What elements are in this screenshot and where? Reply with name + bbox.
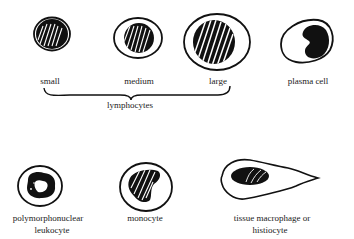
label-medium: medium [124, 75, 154, 87]
label-small: small [40, 75, 60, 87]
small-lymphocyte-icon [34, 18, 70, 51]
lymphocytes-brace [44, 86, 230, 100]
label-monocyte: monocyte [127, 212, 163, 224]
polymorphonuclear-leukocyte-icon [18, 166, 62, 206]
label-lymphocytes: lymphocytes [107, 99, 153, 111]
label-large: large [209, 75, 227, 87]
plasma-cell-icon [281, 20, 333, 63]
large-lymphocyte-icon [184, 14, 250, 70]
monocyte-icon [120, 163, 172, 211]
medium-lymphocyte-icon [114, 18, 162, 58]
label-macrophage-line1: tissue macrophage or [234, 212, 310, 224]
tissue-macrophage-icon [221, 160, 318, 199]
label-pmn-line2: leukocyte [35, 224, 70, 236]
label-macrophage-line2: histiocyte [253, 224, 288, 236]
label-pmn-line1: polymorphonuclear [13, 212, 83, 224]
cell-types-diagram [0, 0, 354, 239]
label-plasma-cell: plasma cell [288, 75, 329, 87]
